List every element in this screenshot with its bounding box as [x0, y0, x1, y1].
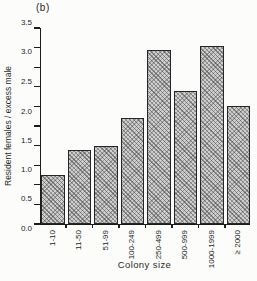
y-axis-title-wrap: Resident females / excess male — [1, 28, 14, 224]
x-tick-label-51-99: 51-99 — [101, 230, 110, 250]
y-tick-mark — [34, 86, 40, 87]
x-tick-mark — [171, 224, 172, 228]
y-tick-mark — [34, 204, 40, 205]
x-tick-label-500-999: 500-999 — [180, 230, 189, 259]
x-tick-label-250-499: 250-499 — [154, 230, 163, 259]
y-tick-mark — [34, 106, 40, 107]
bars-container — [41, 28, 250, 224]
bar-≥ 2000 — [227, 106, 251, 224]
x-tick-mark — [224, 224, 225, 228]
bar-1000-1999 — [200, 46, 224, 224]
x-tick-mark — [92, 224, 93, 228]
panel-label: (b) — [36, 2, 50, 13]
y-axis-title: Resident females / excess male — [3, 66, 13, 186]
y-tick-mark — [34, 47, 40, 48]
y-tick-mark — [34, 223, 40, 224]
bar-11-50 — [68, 150, 92, 224]
bar-100-249 — [121, 118, 145, 224]
x-tick-mark — [145, 224, 146, 228]
y-tick-mark — [34, 165, 40, 166]
x-tick-mark — [118, 224, 119, 228]
bar-1-10 — [41, 175, 65, 224]
x-tick-label-≥ 2000: ≥ 2000 — [233, 230, 242, 254]
plot-area: 0.00.51.01.52.02.53.03.54.04.55.01-1011-… — [40, 28, 250, 225]
y-tick-mark — [34, 27, 40, 28]
x-tick-label-1-10: 1-10 — [48, 230, 57, 246]
y-tick-mark — [34, 184, 40, 185]
x-tick-label-11-50: 11-50 — [74, 230, 83, 250]
bar-chart-figure: (b) Resident females / excess male 0.00.… — [0, 0, 257, 281]
x-axis-title: Colony size — [40, 259, 249, 270]
y-tick-mark — [34, 67, 40, 68]
y-tick-mark — [34, 145, 40, 146]
bar-500-999 — [174, 91, 198, 224]
y-tick-mark — [34, 125, 40, 126]
bar-250-499 — [147, 50, 171, 224]
bar-51-99 — [94, 146, 118, 224]
y-tick-label: 5.0 — [21, 0, 32, 126]
x-tick-label-100-249: 100-249 — [127, 230, 136, 259]
x-tick-mark — [198, 224, 199, 228]
x-tick-mark — [65, 224, 66, 228]
